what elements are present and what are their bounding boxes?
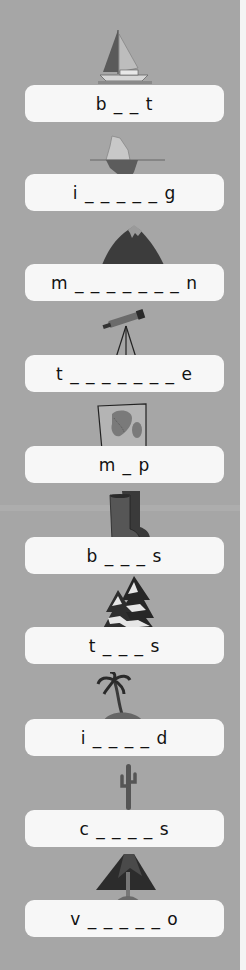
word-hint: v _ _ _ _ _ o — [70, 909, 178, 929]
word-card-6: b _ _ _ s — [25, 537, 224, 574]
word-hint: m _ _ _ _ _ _ _ n — [51, 273, 198, 293]
word-card-5: m _ p — [25, 446, 224, 483]
word-card-7: t _ _ _ s — [25, 627, 224, 664]
mountain-icon — [100, 222, 166, 266]
word-card-3: m _ _ _ _ _ _ _ n — [25, 264, 224, 301]
word-hint: m _ p — [99, 455, 151, 475]
word-hint: i _ _ _ _ _ g — [73, 183, 176, 203]
word-hint: b _ _ t — [96, 94, 154, 114]
word-hint: t _ _ _ _ _ _ _ e — [56, 364, 193, 384]
word-card-8: i _ _ _ _ d — [25, 719, 224, 756]
cactus-icon — [118, 762, 138, 812]
page-edge — [240, 0, 246, 970]
word-hint: t _ _ _ s — [89, 636, 161, 656]
word-card-10: v _ _ _ _ _ o — [25, 900, 224, 937]
island-icon — [96, 672, 158, 724]
word-card-1: b _ _ t — [25, 85, 224, 122]
word-hint: c _ _ _ _ s — [79, 819, 169, 839]
sailboat-icon — [98, 28, 154, 86]
word-hint: b _ _ _ s — [87, 546, 163, 566]
map-icon — [96, 402, 150, 452]
word-card-9: c _ _ _ _ s — [25, 810, 224, 847]
word-card-4: t _ _ _ _ _ _ _ e — [25, 355, 224, 392]
word-card-2: i _ _ _ _ _ g — [25, 174, 224, 211]
word-hint: i _ _ _ _ d — [81, 728, 169, 748]
